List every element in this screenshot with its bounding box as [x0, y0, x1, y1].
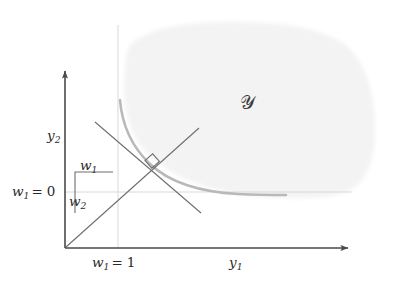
- w2-step-label: w2: [69, 195, 86, 210]
- diagram-canvas: y2 w1=0 w1 w2 w1=1 y1 𝒴: [0, 0, 394, 291]
- region-label-Y: 𝒴: [240, 93, 255, 112]
- w1-step-label: w1: [80, 159, 97, 174]
- diagram-svg: [0, 0, 394, 291]
- w1-equals-zero-label: w1=0: [12, 185, 57, 200]
- x-axis-label: y1: [229, 256, 242, 271]
- weight-direction-ray: [66, 128, 199, 247]
- w1-equals-one-label: w1=1: [92, 256, 137, 271]
- y-axis-label: y2: [47, 129, 60, 144]
